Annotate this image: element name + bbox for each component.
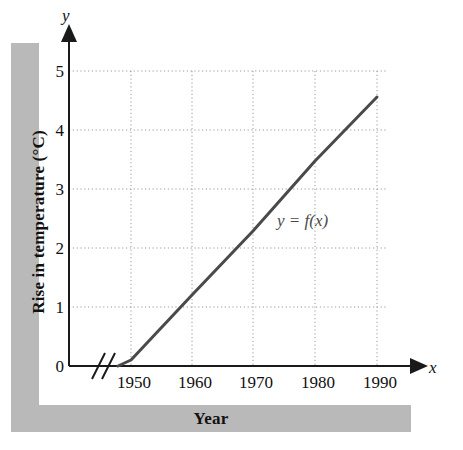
x-tick-label-1950: 1950 bbox=[104, 374, 164, 391]
x-tick-label-1970: 1970 bbox=[226, 374, 286, 391]
y-axis-variable-label: y bbox=[62, 6, 70, 26]
y-tick-label-4: 4 bbox=[44, 122, 64, 139]
x-tick-label-1960: 1960 bbox=[165, 374, 225, 391]
x-axis-variable-label: x bbox=[429, 358, 437, 378]
y-tick-label-1: 1 bbox=[44, 299, 64, 316]
y-tick-label-5: 5 bbox=[44, 63, 64, 80]
x-tick-label-1990: 1990 bbox=[350, 374, 410, 391]
y-tick-label-3: 3 bbox=[44, 181, 64, 198]
y-tick-label-0: 0 bbox=[44, 358, 64, 375]
function-annotation: y = f(x) bbox=[277, 211, 328, 231]
function-line bbox=[118, 97, 377, 366]
y-tick-label-2: 2 bbox=[44, 240, 64, 257]
temperature-rise-figure: Rise in temperature (°C) Year bbox=[0, 0, 463, 450]
x-tick-label-1980: 1980 bbox=[288, 374, 348, 391]
horizontal-gridlines bbox=[69, 71, 386, 307]
